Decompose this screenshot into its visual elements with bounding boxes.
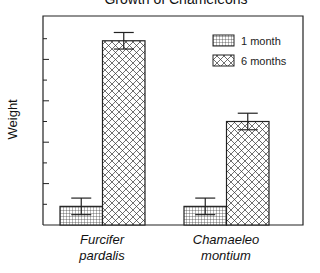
bar-6-months [103, 41, 146, 225]
legend-swatch [213, 35, 234, 46]
bars [60, 32, 269, 225]
legend: 1 month6 months [213, 35, 287, 67]
legend-label: 1 month [241, 35, 281, 47]
bar-6-months [227, 122, 270, 226]
legend-label: 6 months [241, 55, 287, 67]
x-tick-label: Chamaeleomontium [166, 232, 286, 264]
legend-swatch [213, 55, 234, 66]
x-tick-label: Furciferpardalis [42, 232, 162, 264]
